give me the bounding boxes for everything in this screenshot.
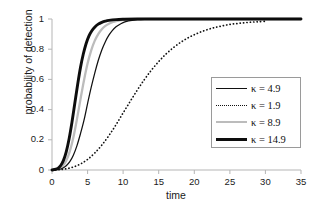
legend-line-sample-gray bbox=[215, 117, 248, 129]
legend-item: κ = 8.9 bbox=[212, 114, 300, 131]
x-tick-label: 35 bbox=[291, 176, 311, 187]
x-tick-label: 20 bbox=[184, 176, 204, 187]
legend-item: κ = 4.9 bbox=[212, 80, 300, 97]
legend-item-label: κ = 8.9 bbox=[248, 117, 281, 128]
legend-item: κ = 14.9 bbox=[212, 131, 300, 148]
x-tick-label: 15 bbox=[149, 176, 169, 187]
legend-line-sample-dotted bbox=[215, 100, 248, 112]
chart-figure: 1 0.8 0.6 0.4 0.2 0 0 5 10 15 20 25 30 3… bbox=[0, 0, 329, 208]
legend: κ = 4.9 κ = 1.9 κ = 8.9 κ = 14.9 bbox=[211, 77, 301, 148]
x-axis-title: time bbox=[52, 189, 300, 201]
legend-item-label: κ = 14.9 bbox=[248, 134, 286, 145]
legend-item-label: κ = 1.9 bbox=[248, 100, 281, 111]
x-tick-label: 5 bbox=[78, 176, 98, 187]
legend-item: κ = 1.9 bbox=[212, 97, 300, 114]
legend-line-sample-thick bbox=[215, 134, 248, 146]
x-axis-ticks bbox=[52, 170, 301, 174]
x-tick-label: 10 bbox=[113, 176, 133, 187]
y-tick-label: 0 bbox=[20, 164, 44, 175]
x-tick-label: 30 bbox=[255, 176, 275, 187]
y-axis-ticks bbox=[48, 19, 52, 170]
y-axis-title: probability of detection bbox=[22, 0, 34, 142]
legend-item-label: κ = 4.9 bbox=[248, 83, 281, 94]
legend-line-sample-solid-thin bbox=[215, 83, 248, 95]
x-tick-label: 25 bbox=[220, 176, 240, 187]
x-tick-label: 0 bbox=[42, 176, 62, 187]
